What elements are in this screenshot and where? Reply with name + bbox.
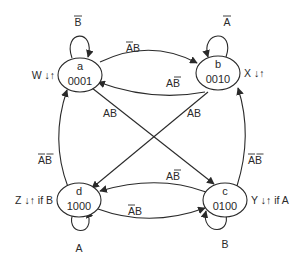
svg-text:AB: AB — [38, 154, 52, 166]
label-d-to-a: AB — [38, 154, 54, 166]
self-loop-a-label: B — [74, 16, 82, 28]
self-loop-b — [207, 36, 228, 57]
self-loop-b-label: A — [223, 16, 231, 28]
label-b-to-d: AB — [187, 107, 201, 119]
svg-text:B: B — [74, 16, 81, 28]
state-a-code: 0001 — [68, 75, 92, 87]
state-d-output: Z ↓↑ if B — [15, 194, 53, 206]
state-c: c 0100 — [203, 183, 247, 217]
svg-text:AB: AB — [166, 77, 180, 89]
label-a-to-c: AB — [103, 107, 117, 119]
state-d-code: 1000 — [67, 200, 91, 212]
state-a-output: W ↓↑ — [32, 69, 55, 81]
edge-c-to-d — [100, 183, 206, 192]
state-c-name: c — [222, 185, 228, 197]
label-d-to-c: AB — [128, 205, 142, 217]
label-c-to-d: AB — [166, 170, 181, 182]
state-c-code: 0100 — [213, 200, 237, 212]
svg-text:AB: AB — [166, 170, 180, 182]
state-b: b 0010 — [196, 56, 240, 90]
edge-d-to-a — [59, 90, 68, 187]
svg-text:AB: AB — [126, 42, 140, 54]
state-b-output: X ↓↑ — [244, 67, 264, 79]
state-diagram: a 0001 b 0010 c 0100 d 1000 W ↓↑ X ↓↑ Y … — [0, 0, 305, 265]
state-d: d 1000 — [57, 183, 101, 217]
edge-a-to-b — [100, 50, 197, 63]
edge-c-to-b — [237, 88, 245, 186]
state-a-name: a — [77, 60, 84, 72]
svg-text:A: A — [223, 16, 230, 28]
state-c-output: Y ↓↑ if A — [251, 194, 289, 206]
state-b-name: b — [215, 58, 221, 70]
state-a: a 0001 — [58, 58, 102, 92]
self-loop-d-label: A — [75, 242, 82, 254]
label-c-to-b: AB — [248, 154, 264, 166]
label-b-to-a: AB — [166, 77, 181, 89]
svg-text:AB: AB — [248, 154, 262, 166]
self-loop-c-label: B — [221, 238, 228, 250]
self-loop-a — [70, 36, 89, 58]
edge-b-to-a — [98, 82, 205, 95]
edge-d-to-c — [98, 208, 205, 218]
state-b-code: 0010 — [206, 73, 230, 85]
svg-text:AB: AB — [128, 205, 142, 217]
state-d-name: d — [76, 185, 82, 197]
label-a-to-b: AB — [126, 42, 140, 54]
